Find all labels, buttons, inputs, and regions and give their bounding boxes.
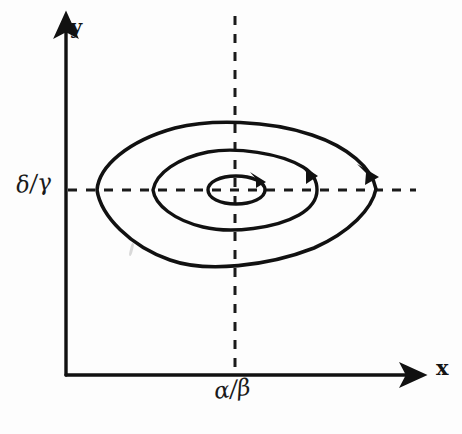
phase-portrait-canvas <box>0 0 462 434</box>
y-tick-label-delta-over-gamma: δ/γ <box>15 168 53 198</box>
phase-portrait-figure: y x δ/γ α/β <box>0 0 462 434</box>
flow-direction-arrows <box>250 164 379 188</box>
x-tick-label-alpha-over-beta: α/β <box>212 374 251 404</box>
guide-lines <box>68 16 416 372</box>
y-axis-label: y <box>70 14 82 39</box>
x-axis-label: x <box>436 355 449 380</box>
